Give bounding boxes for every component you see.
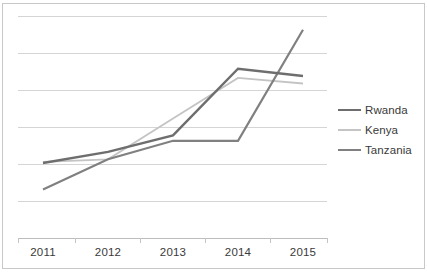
legend-swatch-icon <box>338 149 361 151</box>
line-chart-figure: 20112012201320142015 RwandaKenyaTanzania <box>0 0 427 272</box>
legend-label: Tanzania <box>365 144 412 156</box>
x-tick-label-2015: 2015 <box>280 246 326 258</box>
legend-label: Rwanda <box>365 104 408 116</box>
x-axis <box>18 238 328 243</box>
series-line-rwanda <box>43 69 303 163</box>
legend-item-tanzania[interactable]: Tanzania <box>338 140 422 160</box>
chart-legend: RwandaKenyaTanzania <box>338 100 422 160</box>
x-tick-label-2014: 2014 <box>215 246 261 258</box>
legend-swatch-icon <box>338 109 361 111</box>
legend-label: Kenya <box>365 124 398 136</box>
legend-swatch-icon <box>338 129 361 131</box>
x-tick-label-2011: 2011 <box>20 246 66 258</box>
gridlines <box>18 17 327 202</box>
legend-item-rwanda[interactable]: Rwanda <box>338 100 422 120</box>
legend-item-kenya[interactable]: Kenya <box>338 120 422 140</box>
x-tick-label-2013: 2013 <box>150 246 196 258</box>
x-tick-label-2012: 2012 <box>85 246 131 258</box>
